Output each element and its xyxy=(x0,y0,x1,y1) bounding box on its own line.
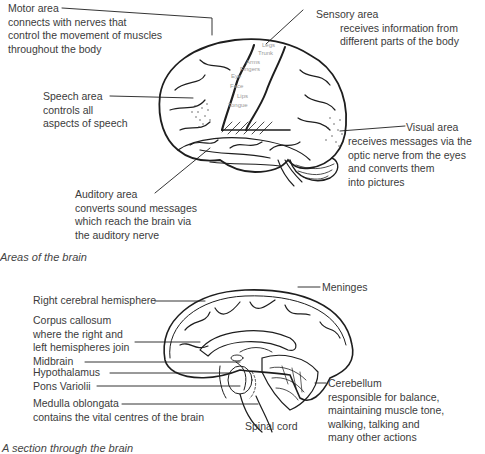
pons-label: Pons Variolii xyxy=(33,380,91,394)
visual-area-title: Visual area xyxy=(406,121,458,135)
motor-area-label: Motor area connects with nerves that con… xyxy=(8,2,162,56)
auditory-area-title: Auditory area xyxy=(75,188,197,202)
meninges-label: Meninges xyxy=(322,281,368,295)
medulla-desc-1: contains the vital centres of the brain xyxy=(33,411,204,425)
cerebellum-desc-1: responsible for balance, xyxy=(328,391,444,405)
cerebellum-title: Cerebellum xyxy=(328,377,444,391)
spinal-cord-label: Spinal cord xyxy=(245,420,298,434)
figure1-caption: Areas of the brain xyxy=(0,251,87,263)
cerebellum-desc-3: walking, talking and xyxy=(328,418,444,432)
svg-text:Arms: Arms xyxy=(246,59,260,65)
auditory-area-desc-2: which reach the brain via xyxy=(75,215,197,229)
speech-area-desc-2: aspects of speech xyxy=(43,117,128,131)
speech-area-label: Speech area controls all aspects of spee… xyxy=(43,90,128,131)
visual-area-title-wrap: Visual area xyxy=(406,121,458,135)
visual-area-desc-3: and converts them xyxy=(348,162,472,176)
corpus-callosum-desc-1: where the right and xyxy=(33,328,129,342)
visual-area-label: receives messages via the optic nerve fr… xyxy=(348,135,472,189)
corpus-callosum-title: Corpus callosum xyxy=(33,314,129,328)
auditory-area-label: Auditory area converts sound messages wh… xyxy=(75,188,197,242)
sensory-area-desc-2: different parts of the body xyxy=(316,35,459,49)
sensory-area-label: Sensory area receives information from d… xyxy=(316,8,459,49)
motor-area-desc-2: control the movement of muscles xyxy=(8,29,162,43)
visual-area-desc-2: optic nerve from the eyes xyxy=(348,149,472,163)
motor-area-desc-3: throughout the body xyxy=(8,43,162,57)
hemisphere-label: Right cerebral hemisphere xyxy=(33,294,156,308)
svg-text:Tongue: Tongue xyxy=(228,102,248,108)
svg-text:Face: Face xyxy=(230,83,244,89)
speech-area-title: Speech area xyxy=(43,90,128,104)
svg-text:Legs: Legs xyxy=(262,42,275,48)
motor-area-desc-1: connects with nerves that xyxy=(8,16,162,30)
figure2-caption: A section through the brain xyxy=(2,442,133,454)
corpus-callosum-label: Corpus callosum where the right and left… xyxy=(33,314,129,355)
motor-area-title: Motor area xyxy=(8,2,162,16)
visual-area-desc-4: into pictures xyxy=(348,176,472,190)
auditory-area-desc-3: the auditory nerve xyxy=(75,229,197,243)
medulla-label: Medulla oblongata contains the vital cen… xyxy=(33,397,204,424)
speech-area-desc-1: controls all xyxy=(43,104,128,118)
svg-text:Eye: Eye xyxy=(231,73,242,79)
cerebellum-label: Cerebellum responsible for balance, main… xyxy=(328,377,444,445)
medulla-title: Medulla oblongata xyxy=(33,397,204,411)
cerebellum-desc-4: many other actions xyxy=(328,431,444,445)
auditory-area-desc-1: converts sound messages xyxy=(75,202,197,216)
sensory-area-title: Sensory area xyxy=(316,8,459,22)
sensory-area-desc-1: receives information from xyxy=(316,22,459,36)
svg-text:Trunk: Trunk xyxy=(258,50,274,56)
corpus-callosum-desc-2: left hemispheres join xyxy=(33,341,129,355)
cerebellum-desc-2: maintaining muscle tone, xyxy=(328,404,444,418)
svg-text:Lips: Lips xyxy=(237,93,248,99)
hypothalamus-label: Hypothalamus xyxy=(33,366,100,380)
visual-area-desc-1: receives messages via the xyxy=(348,135,472,149)
svg-text:Fingers: Fingers xyxy=(240,66,260,72)
